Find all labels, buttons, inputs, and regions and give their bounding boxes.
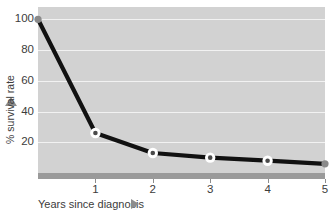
x-tick-label: 5 (313, 183, 333, 195)
survival-rate-line-chart: % survival rate 20 40 60 80 100 12345 Ye… (0, 0, 333, 217)
survival-curve (38, 7, 325, 179)
x-tick-label: 4 (256, 183, 280, 195)
data-point-marker (321, 160, 328, 167)
series-line (38, 19, 325, 163)
x-axis-bar (38, 173, 325, 179)
triangle-right-icon (131, 199, 139, 209)
data-point-marker-center (151, 151, 156, 156)
data-point-marker-center (265, 158, 270, 163)
x-axis-title: Years since diagnosis (38, 198, 144, 210)
y-tick-label: 60 (0, 75, 34, 87)
data-point-marker (34, 16, 41, 23)
x-tick-label: 1 (83, 183, 107, 195)
y-tick-label: 100 (0, 13, 34, 25)
plot-area (38, 7, 325, 179)
y-tick-label: 20 (0, 136, 34, 148)
data-point-marker-center (208, 155, 213, 160)
data-point-marker-center (93, 131, 98, 136)
y-tick-label: 80 (0, 44, 34, 56)
x-tick-label: 3 (198, 183, 222, 195)
y-tick-label: 40 (0, 106, 34, 118)
y-axis-tick-labels: 20 40 60 80 100 (0, 0, 34, 217)
x-tick-label: 2 (141, 183, 165, 195)
